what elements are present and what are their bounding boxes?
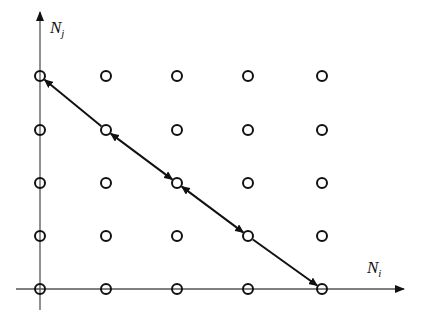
lattice-node	[317, 231, 327, 241]
lattice-diagram	[0, 0, 424, 320]
lattice-node	[243, 125, 253, 135]
x-axis-label: Ni	[367, 258, 381, 279]
lattice-node	[172, 178, 182, 188]
path-arrow	[182, 187, 243, 233]
lattice-node	[172, 71, 182, 81]
lattice-node	[101, 125, 111, 135]
lattice-node	[101, 231, 111, 241]
lattice-node	[243, 71, 253, 81]
lattice-node	[317, 71, 327, 81]
lattice-node	[243, 231, 253, 241]
path-arrows	[45, 80, 317, 286]
lattice-node	[172, 125, 182, 135]
y-axis-label: Nj	[50, 18, 64, 39]
lattice-node	[101, 71, 111, 81]
path-arrow	[111, 134, 172, 180]
path-arrow	[253, 239, 317, 285]
lattice-node	[172, 231, 182, 241]
lattice-node	[317, 125, 327, 135]
path-arrow	[45, 80, 102, 126]
lattice-node	[243, 178, 253, 188]
lattice-node	[101, 178, 111, 188]
lattice-node	[317, 178, 327, 188]
